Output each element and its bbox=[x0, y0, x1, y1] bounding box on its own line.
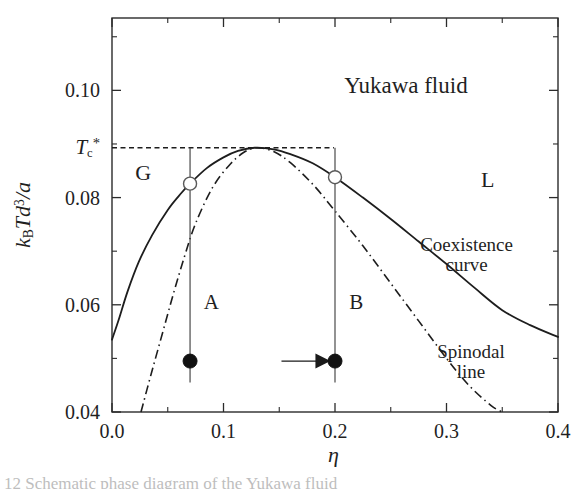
critical-temperature-label: Tc* bbox=[75, 134, 100, 161]
open-marker-a bbox=[184, 177, 197, 190]
x-tick-label: 0.4 bbox=[546, 421, 571, 441]
x-tick-label: 0.3 bbox=[434, 421, 459, 441]
y-tick-label: 0.04 bbox=[65, 402, 100, 422]
spinodal-line-label: Spinodal line bbox=[437, 342, 505, 382]
x-tick-label: 0.2 bbox=[323, 421, 348, 441]
x-tick-label: 0.1 bbox=[211, 421, 236, 441]
y-tick-label: 0.10 bbox=[65, 80, 100, 100]
y-axis-title: kBTd3/a bbox=[12, 182, 36, 248]
quench-arrow bbox=[281, 354, 330, 369]
y-tick-label: 0.06 bbox=[65, 295, 100, 315]
coexistence-curve-label: Coexistence curve bbox=[420, 235, 513, 275]
tc-superscript: * bbox=[93, 135, 100, 151]
open-marker-b bbox=[329, 171, 342, 184]
x-tick-label: 0.0 bbox=[100, 421, 125, 441]
tc-letter: T bbox=[75, 134, 87, 158]
x-axis-title: η bbox=[328, 444, 339, 466]
region-label-liquid: L bbox=[481, 167, 494, 193]
state-label-b: B bbox=[349, 289, 363, 314]
fluid-title-label: Yukawa fluid bbox=[344, 73, 467, 99]
quench-path-lines bbox=[190, 148, 335, 383]
filled-marker-b bbox=[328, 354, 342, 368]
y-tick-label: 0.08 bbox=[65, 188, 100, 208]
phase-diagram-figure: 0.040.060.080.10 0.00.10.20.30.4 kBTd3/a… bbox=[0, 0, 588, 489]
filled-marker-a bbox=[183, 354, 197, 368]
spinodal-label-line-1: Spinodal bbox=[437, 342, 505, 362]
state-label-a: A bbox=[204, 289, 219, 314]
coexistence-label-line-1: Coexistence bbox=[420, 235, 513, 255]
coexistence-label-line-2: curve bbox=[420, 255, 513, 275]
figure-caption-fragment: 12 Schematic phase diagram of the Yukawa… bbox=[0, 475, 588, 489]
state-point-markers bbox=[183, 171, 342, 368]
region-label-gas: G bbox=[135, 160, 151, 186]
spinodal-label-line-2: line bbox=[437, 362, 505, 382]
